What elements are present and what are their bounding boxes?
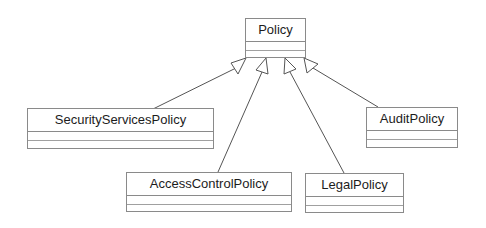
- class-policy[interactable]: Policy: [245, 18, 306, 58]
- attributes-compartment: [306, 197, 403, 206]
- edge-legal-to-policy: [284, 58, 344, 173]
- operations-compartment: [28, 141, 213, 148]
- attributes-compartment: [367, 131, 457, 140]
- class-security-services-policy[interactable]: SecurityServicesPolicy: [27, 108, 214, 149]
- hollow-triangle-arrow-icon: [304, 58, 318, 73]
- hollow-triangle-arrow-icon: [256, 58, 268, 74]
- class-name: Policy: [246, 19, 305, 42]
- hollow-triangle-arrow-icon: [284, 58, 296, 74]
- class-legal-policy[interactable]: LegalPolicy: [305, 173, 404, 213]
- attributes-compartment: [246, 42, 305, 51]
- edge-audit-to-policy: [304, 58, 378, 107]
- operations-compartment: [127, 205, 291, 211]
- edge-access-to-policy: [218, 58, 268, 172]
- attributes-compartment: [28, 132, 213, 141]
- class-name: AccessControlPolicy: [127, 173, 291, 196]
- operations-compartment: [367, 140, 457, 147]
- class-audit-policy[interactable]: AuditPolicy: [366, 107, 458, 148]
- class-access-control-policy[interactable]: AccessControlPolicy: [126, 172, 292, 212]
- class-name: LegalPolicy: [306, 174, 403, 197]
- edge-security-to-policy: [153, 58, 246, 109]
- attributes-compartment: [127, 196, 291, 205]
- hollow-triangle-arrow-icon: [231, 58, 246, 74]
- operations-compartment: [246, 51, 305, 57]
- operations-compartment: [306, 206, 403, 212]
- class-name: AuditPolicy: [367, 108, 457, 131]
- class-name: SecurityServicesPolicy: [28, 109, 213, 132]
